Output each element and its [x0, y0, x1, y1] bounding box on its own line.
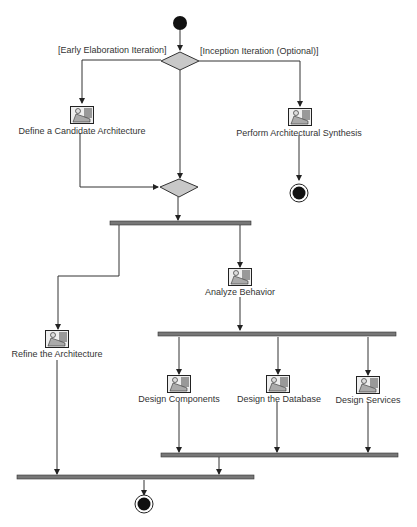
- activity-diagram: [0, 0, 417, 527]
- activity-refine-architecture: Refine the Architecture: [11, 349, 102, 360]
- activity-design-database: Design the Database: [237, 394, 321, 405]
- activity-icon-define: [70, 106, 94, 124]
- join-bar-final: [17, 475, 254, 479]
- activity-icon-analyze: [228, 268, 252, 286]
- activity-design-components: Design Components: [138, 394, 220, 405]
- start-node: [173, 16, 187, 30]
- guard-inception: [Inception Iteration (Optional)]: [200, 46, 319, 57]
- fork-bar-design: [158, 332, 396, 336]
- join-bar-design: [161, 453, 398, 457]
- activity-icon-services: [356, 376, 380, 394]
- fork-bar: [110, 221, 251, 225]
- activity-icon-refine: [45, 330, 69, 348]
- activity-design-services: Design Services: [335, 395, 400, 406]
- activity-icon-components: [167, 375, 191, 393]
- activity-icon-database: [266, 375, 290, 393]
- activity-analyze-behavior: Analyze Behavior: [205, 287, 275, 298]
- activity-icon-synthesis: [288, 108, 312, 126]
- guard-early-elaboration: [Early Elaboration Iteration]: [58, 45, 167, 56]
- activity-define-candidate-architecture: Define a Candidate Architecture: [18, 126, 145, 137]
- merge-node: [160, 179, 198, 197]
- decision-node: [161, 52, 199, 70]
- activity-perform-architectural-synthesis: Perform Architectural Synthesis: [236, 128, 362, 139]
